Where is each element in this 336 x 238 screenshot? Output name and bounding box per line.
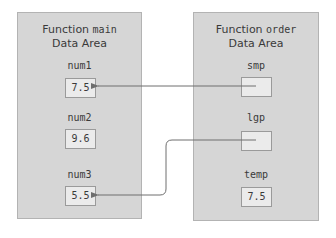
pointer-arrows bbox=[0, 0, 336, 238]
lgp-to-num3-arrow bbox=[98, 140, 256, 195]
